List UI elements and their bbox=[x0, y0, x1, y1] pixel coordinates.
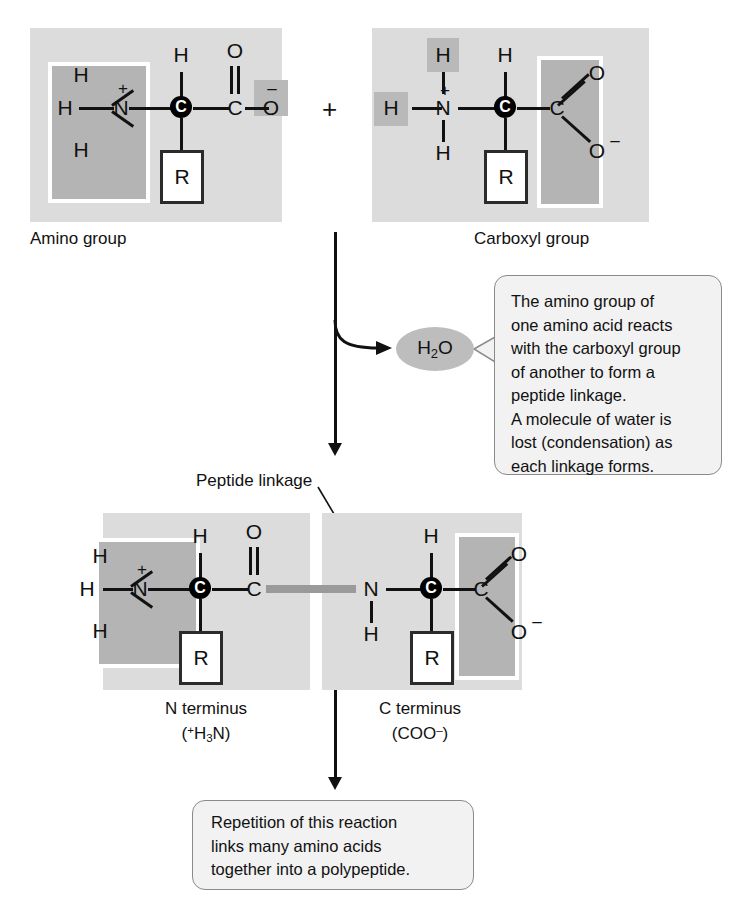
r-group-label-right: R bbox=[487, 165, 525, 189]
bond-alpha-carbon-to-h bbox=[180, 72, 183, 98]
reaction-arrow-1-head bbox=[328, 443, 342, 456]
callout-bottom: Repetition of this reaction links many a… bbox=[192, 800, 474, 890]
product-r2-alpha-carbon-node: C bbox=[420, 577, 442, 599]
product-bond-alpha-carbon-to-r bbox=[199, 599, 202, 631]
r2-alpha-carbon-node: C bbox=[494, 96, 516, 118]
r-group-box-left: R bbox=[160, 150, 204, 204]
oxygen-negative-charge: – bbox=[265, 80, 279, 97]
bond-r2-alpha-carbon-to-r bbox=[504, 118, 507, 150]
atom-label-h-bottom-left: H bbox=[72, 139, 90, 160]
product-r-group-box-left: R bbox=[179, 631, 223, 685]
water-branch-arrowhead bbox=[376, 341, 392, 355]
r2-alpha-carbon-label: C bbox=[494, 96, 516, 118]
atom-label-h-alpha: H bbox=[172, 44, 190, 65]
r-group-box-right: R bbox=[484, 150, 528, 204]
product-bond-amide-n-to-h bbox=[370, 601, 373, 623]
product-atom-r2-carboxyl-carbon: C bbox=[472, 578, 490, 599]
product-bond-carbonyl-double-2 bbox=[256, 547, 259, 575]
reaction-arrow-1-shaft bbox=[334, 232, 337, 444]
product-r2-alpha-carbon-label: C bbox=[420, 577, 442, 599]
callout-top-line-1: The amino group of bbox=[511, 290, 711, 314]
r2-nitrogen-positive-charge: + bbox=[438, 82, 452, 99]
product-bond-amide-n-to-alpha-carbon bbox=[386, 588, 422, 591]
product-atom-amide-hydrogen: H bbox=[362, 623, 380, 644]
product-atom-r2-hydroxyl-oxygen: O bbox=[510, 621, 528, 642]
product-bond-carbonyl-double-1 bbox=[249, 547, 252, 575]
bond-h-left-to-n bbox=[79, 107, 114, 110]
c-terminus-caption: C terminus bbox=[340, 698, 500, 719]
c-terminus-formula: (COO–) bbox=[340, 720, 500, 744]
product-r-group-label-left: R bbox=[182, 646, 220, 670]
callout-top-line-7: lost (condensation) as bbox=[511, 431, 711, 455]
product-nitrogen-positive-charge: + bbox=[135, 561, 149, 578]
atom-label-r2-h-alpha: H bbox=[496, 44, 514, 65]
product-atom-amide-nitrogen: N bbox=[362, 578, 380, 599]
r2-oxygen-negative-charge: – bbox=[608, 132, 622, 149]
product-bond-alpha-carbon-to-carbonyl bbox=[212, 588, 248, 591]
product-bond-r2-alpha-carbon-to-h bbox=[430, 553, 433, 579]
amino-group-highlight-box bbox=[48, 62, 150, 203]
product-bond-alpha-carbon-to-h bbox=[199, 553, 202, 579]
water-molecule-ellipse: H2O bbox=[396, 327, 474, 371]
product-atom-h-bottom-left: H bbox=[91, 620, 109, 641]
product-bond-n-to-alpha-carbon bbox=[148, 588, 190, 591]
bond-n-to-alpha-carbon bbox=[129, 107, 171, 110]
product-alpha-carbon-node: C bbox=[189, 577, 211, 599]
callout-top-line-2: one amino acid reacts bbox=[511, 314, 711, 338]
product-atom-h-alpha: H bbox=[191, 525, 209, 546]
n-terminus-formula: (+H3N) bbox=[126, 720, 286, 749]
product-bond-h-left-to-n bbox=[103, 588, 133, 591]
callout-top: The amino group of one amino acid reacts… bbox=[494, 275, 722, 475]
callout-bottom-line-2: links many amino acids bbox=[211, 835, 463, 859]
callout-top-line-3: with the carboxyl group bbox=[511, 337, 711, 361]
atom-label-h-top-left: H bbox=[72, 64, 90, 85]
plus-operator: + bbox=[322, 96, 337, 122]
product-r-group-label-right: R bbox=[413, 646, 451, 670]
product-atom-nitrogen: N bbox=[131, 578, 149, 599]
peptide-linkage-label: Peptide linkage bbox=[196, 470, 312, 491]
atom-label-r2-carboxyl-carbon: C bbox=[548, 97, 566, 118]
atom-label-r2-h-top: H bbox=[434, 44, 452, 65]
n-terminus-caption: N terminus bbox=[126, 698, 286, 719]
product-r-group-box-right: R bbox=[410, 631, 454, 685]
bond-carbonyl-double-1 bbox=[230, 66, 233, 94]
peptide-bond-bar bbox=[266, 585, 356, 593]
r-group-label: R bbox=[163, 165, 201, 189]
product-atom-carbonyl-oxygen: O bbox=[245, 521, 263, 542]
product-atom-r2-carbonyl-oxygen: O bbox=[510, 543, 528, 564]
product-bond-r2-alpha-carbon-to-r bbox=[430, 599, 433, 631]
alpha-carbon-node: C bbox=[170, 96, 192, 118]
bond-carbonyl-double-2 bbox=[237, 66, 240, 94]
bond-r2-alpha-carbon-to-h bbox=[504, 72, 507, 98]
callout-top-text: The amino group of one amino acid reacts… bbox=[511, 290, 711, 478]
product-atom-h-top-left: H bbox=[91, 545, 109, 566]
product-r2-oxygen-negative-charge: – bbox=[530, 613, 544, 630]
callout-top-pointer bbox=[474, 337, 495, 362]
reactant-left-caption: Amino group bbox=[30, 228, 126, 249]
water-formula: H2O bbox=[396, 337, 474, 361]
callout-top-line-8: each linkage forms. bbox=[511, 455, 711, 479]
product-bond-r2-alpha-carbon-to-carboxyl bbox=[443, 588, 475, 591]
atom-label-carbonyl-oxygen: O bbox=[226, 40, 244, 61]
water-branch-arrow-path bbox=[335, 320, 378, 348]
atom-label-carbonyl-carbon: C bbox=[226, 97, 244, 118]
atom-label-r2-h-left: H bbox=[382, 97, 400, 118]
alpha-carbon-label: C bbox=[170, 96, 192, 118]
bond-r2-n-to-alpha-carbon bbox=[458, 107, 496, 110]
callout-bottom-line-3: together into a polypeptide. bbox=[211, 858, 463, 882]
nitrogen-positive-charge: + bbox=[116, 80, 130, 97]
bond-alpha-carbon-to-carbonyl bbox=[193, 107, 229, 110]
bond-alpha-carbon-to-r bbox=[180, 118, 183, 150]
atom-label-r2-hydroxyl-oxygen: O bbox=[588, 140, 606, 161]
atom-label-hydroxyl-oxygen: O bbox=[262, 97, 280, 118]
product-atom-h-left: H bbox=[78, 578, 96, 599]
atom-label-r2-carbonyl-oxygen: O bbox=[588, 62, 606, 83]
callout-bottom-text: Repetition of this reaction links many a… bbox=[211, 811, 463, 882]
atom-label-r2-nitrogen: N bbox=[434, 97, 452, 118]
product-atom-carbonyl-carbon: C bbox=[245, 578, 263, 599]
callout-top-line-6: A molecule of water is bbox=[511, 408, 711, 432]
reactant-right-caption: Carboxyl group bbox=[474, 228, 589, 249]
callout-bottom-line-1: Repetition of this reaction bbox=[211, 811, 463, 835]
atom-label-r2-h-bottom: H bbox=[434, 142, 452, 163]
atom-label-h-left: H bbox=[56, 97, 74, 118]
